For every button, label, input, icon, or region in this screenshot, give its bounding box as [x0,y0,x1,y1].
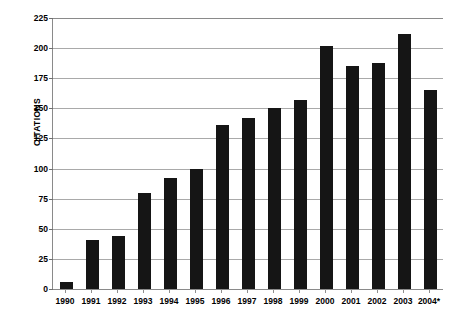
plot-area: 2252001751501251007550250 [52,18,443,290]
citations-bar-chart: CITATIONS 2252001751501251007550250 1990… [0,0,458,320]
bar[interactable] [372,63,385,289]
x-axis-tick-marks [52,289,442,295]
x-axis-tick-label: 1994 [156,296,182,306]
x-axis-tick-mark [91,289,92,293]
x-tick-slot [364,289,390,295]
x-axis-tick-mark [247,289,248,293]
x-axis-tick-label: 1995 [182,296,208,306]
x-tick-slot [312,289,338,295]
bar[interactable] [294,100,307,289]
y-axis-tick-label: 100 [6,164,48,174]
x-tick-slot [104,289,130,295]
x-axis-tick-label: 2002 [364,296,390,306]
y-axis-tick-label: 125 [6,133,48,143]
x-tick-slot [234,289,260,295]
y-axis-tick-label: 150 [6,103,48,113]
x-tick-slot [260,289,286,295]
bar[interactable] [268,108,281,289]
y-axis-tick-label: 0 [6,284,48,294]
y-axis-title: CITATIONS [32,82,42,162]
bar[interactable] [398,34,411,289]
y-axis-tick-label: 75 [6,194,48,204]
x-axis-tick-mark [143,289,144,293]
bar[interactable] [346,66,359,289]
x-axis-tick-label: 1993 [130,296,156,306]
bar-slot [183,18,209,289]
x-axis-tick-mark [117,289,118,293]
bar[interactable] [320,46,333,289]
x-axis-tick-label: 1991 [78,296,104,306]
x-axis-tick-label: 1992 [104,296,130,306]
x-axis-labels: 1990199119921993199419951996199719981999… [52,296,442,306]
x-axis-tick-mark [221,289,222,293]
y-axis-tick-label: 25 [6,254,48,264]
bar-slot [313,18,339,289]
x-tick-slot [286,289,312,295]
x-tick-slot [208,289,234,295]
x-tick-slot [52,289,78,295]
bar[interactable] [60,282,73,289]
bars-group [53,18,443,289]
bar-slot [79,18,105,289]
x-axis-tick-mark [65,289,66,293]
bar[interactable] [424,90,437,289]
x-axis-tick-mark [377,289,378,293]
bar-slot [339,18,365,289]
bar-slot [235,18,261,289]
bar-slot [209,18,235,289]
x-axis-tick-label: 2003 [390,296,416,306]
bar-slot [261,18,287,289]
y-axis-tick-label: 50 [6,224,48,234]
bar-slot [105,18,131,289]
bar-slot [391,18,417,289]
x-axis-tick-label: 1996 [208,296,234,306]
bar[interactable] [164,178,177,289]
x-axis-tick-mark [429,289,430,293]
x-axis-tick-label: 2001 [338,296,364,306]
x-axis-tick-mark [195,289,196,293]
bar[interactable] [138,193,151,289]
bar-slot [417,18,443,289]
bar[interactable] [190,169,203,289]
y-axis-tick-label: 225 [6,13,48,23]
bar-slot [287,18,313,289]
bar[interactable] [112,236,125,289]
x-axis-tick-mark [273,289,274,293]
x-axis-tick-label: 1997 [234,296,260,306]
x-axis-tick-label: 1998 [260,296,286,306]
bar-slot [365,18,391,289]
x-tick-slot [390,289,416,295]
bar-slot [53,18,79,289]
x-tick-slot [130,289,156,295]
x-axis-tick-mark [403,289,404,293]
x-tick-slot [156,289,182,295]
x-axis-tick-mark [169,289,170,293]
x-tick-slot [78,289,104,295]
x-axis-tick-label: 2004* [416,296,442,306]
y-axis-tick-label: 200 [6,43,48,53]
x-axis-tick-label: 2000 [312,296,338,306]
x-axis-tick-label: 1990 [52,296,78,306]
bar[interactable] [86,240,99,289]
bar[interactable] [216,125,229,289]
bar[interactable] [242,118,255,289]
x-tick-slot [182,289,208,295]
bar-slot [157,18,183,289]
x-axis-tick-mark [299,289,300,293]
x-axis-tick-mark [325,289,326,293]
y-axis-tick-label: 175 [6,73,48,83]
x-axis-tick-label: 1999 [286,296,312,306]
x-tick-slot [416,289,442,295]
x-tick-slot [338,289,364,295]
bar-slot [131,18,157,289]
x-axis-tick-mark [351,289,352,293]
